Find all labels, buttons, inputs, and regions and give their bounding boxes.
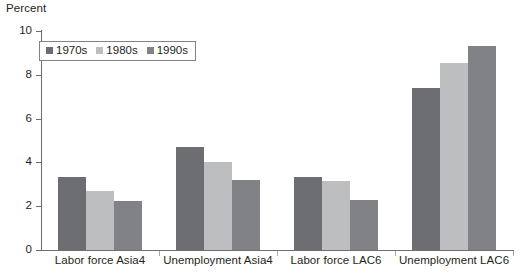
bar [440, 63, 468, 250]
legend-label: 1980s [106, 45, 137, 57]
legend-entry: 1970s [46, 45, 87, 57]
bar [322, 181, 350, 250]
category-label: Labor force Asia4 [41, 254, 159, 266]
legend-swatch-icon [46, 47, 53, 54]
bar [204, 162, 232, 250]
y-axis-title: Percent [6, 2, 46, 14]
legend-swatch-icon [147, 47, 154, 54]
bar [294, 177, 322, 250]
chart-legend: 1970s1980s1990s [39, 41, 196, 61]
bar [114, 201, 142, 250]
y-axis-tick-label: 10 [8, 25, 32, 37]
bar [176, 147, 204, 250]
category-separator-tick [513, 251, 514, 256]
legend-entry: 1990s [147, 45, 188, 57]
y-axis-tick-label: 0 [8, 244, 32, 256]
category-label: Unemployment Asia4 [159, 254, 277, 266]
y-axis-tick-label: 8 [8, 69, 32, 81]
bar [86, 191, 114, 250]
legend-swatch-icon [96, 47, 103, 54]
category-label: Labor force LAC6 [277, 254, 395, 266]
y-axis-tick-label: 6 [8, 113, 32, 125]
y-axis-tick-label: 4 [8, 156, 32, 168]
bar [412, 88, 440, 250]
y-axis-tick [36, 250, 41, 251]
y-axis-tick-label: 2 [8, 200, 32, 212]
legend-label: 1990s [157, 45, 188, 57]
bar [58, 177, 86, 250]
bar [232, 180, 260, 250]
bar [350, 200, 378, 250]
bar-chart-figure: Percent 0246810 Labor force Asia4Unemplo… [0, 0, 521, 274]
category-label: Unemployment LAC6 [395, 254, 513, 266]
bar [468, 46, 496, 250]
legend-entry: 1980s [96, 45, 137, 57]
legend-label: 1970s [56, 45, 87, 57]
plot-area [41, 31, 513, 250]
